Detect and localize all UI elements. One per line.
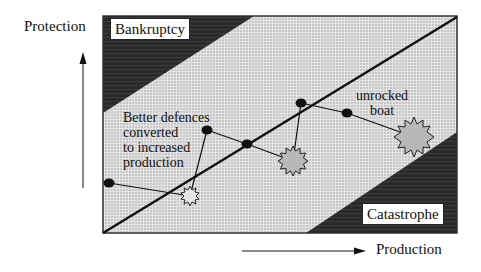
annotation-line: production: [123, 155, 210, 170]
defences-annotation: Better defences converted to increased p…: [123, 110, 210, 170]
catastrophe-label: Catastrophe: [362, 203, 444, 225]
unrocked-boat-annotation: unrocked boat: [356, 88, 408, 118]
protection-production-diagram: [0, 0, 481, 272]
node-dot: [104, 179, 115, 188]
y-axis-label: Protection: [24, 18, 86, 35]
annotation-line: Better defences: [123, 110, 210, 125]
node-dot: [342, 109, 353, 118]
x-axis-arrow: [242, 248, 366, 255]
annotation-line: converted: [123, 125, 210, 140]
bankruptcy-label: Bankruptcy: [110, 18, 190, 40]
annotation-line: unrocked: [356, 88, 408, 103]
x-axis-label: Production: [376, 241, 442, 258]
node-dot: [296, 99, 307, 108]
annotation-line: to increased: [123, 140, 210, 155]
node-dot: [242, 140, 253, 149]
y-axis-arrow: [80, 52, 87, 188]
annotation-line: boat: [356, 103, 408, 118]
